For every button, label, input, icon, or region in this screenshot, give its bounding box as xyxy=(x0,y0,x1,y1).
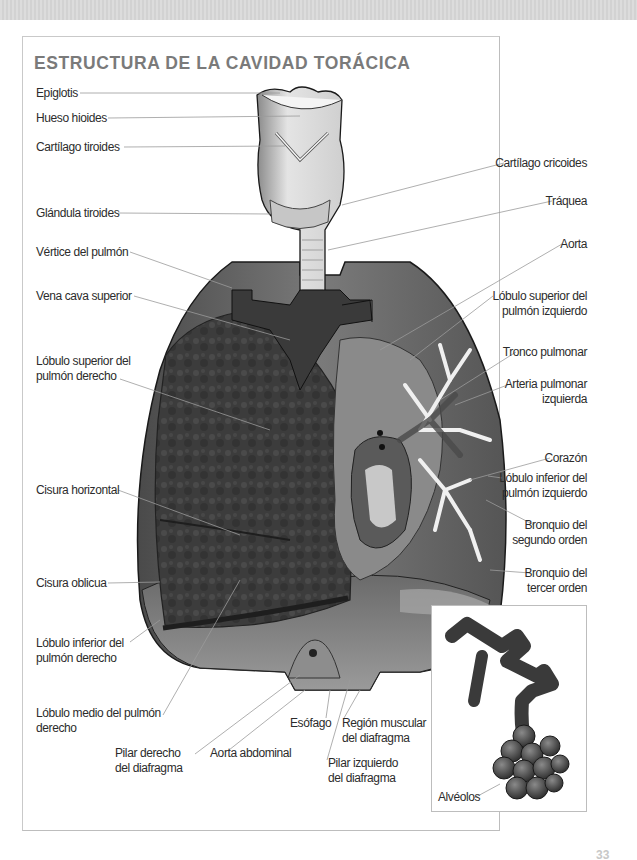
label-lobulo-superior-izquierdo: Lóbulo superior del pulmón izquierdo xyxy=(493,289,587,319)
label-line: pulmón izquierdo xyxy=(499,486,587,501)
label-line: del diafragma xyxy=(328,771,398,786)
label-line: Lóbulo inferior del xyxy=(499,471,587,486)
label-region-muscular: Región muscular del diafragma xyxy=(342,716,426,746)
label-aorta-abdominal: Aorta abdominal xyxy=(210,746,291,761)
label-pilar-izquierdo: Pilar izquierdo del diafragma xyxy=(328,756,398,786)
label-line: Lóbulo superior del xyxy=(493,289,587,304)
label-line: pulmón derecho xyxy=(36,651,124,666)
label-vena-cava-superior: Vena cava superior xyxy=(36,289,132,304)
label-arteria-pulmonar-izquierda: Arteria pulmonar izquierda xyxy=(505,377,587,407)
label-pilar-derecho: Pilar derecho del diafragma xyxy=(115,746,183,776)
label-line: tercer orden xyxy=(524,581,587,596)
alveoli-icon xyxy=(432,606,586,811)
label-line: del diafragma xyxy=(115,761,183,776)
label-epiglotis: Epiglotis xyxy=(36,86,78,101)
label-line: segundo orden xyxy=(512,533,587,548)
label-line: del diafragma xyxy=(342,731,426,746)
label-vertice-pulmon: Vértice del pulmón xyxy=(36,245,128,260)
label-corazon: Corazón xyxy=(544,451,587,466)
alveoli-inset: Alvéolos xyxy=(431,605,587,812)
label-line: Región muscular xyxy=(342,716,426,731)
label-alveolos: Alvéolos xyxy=(438,790,480,805)
page-number: 33 xyxy=(596,848,609,860)
label-line: pulmón izquierdo xyxy=(493,304,587,319)
label-cartilago-cricoides: Cartílago cricoides xyxy=(495,156,587,171)
label-esofago: Esófago xyxy=(290,716,331,731)
label-cisura-horizontal: Cisura horizontal xyxy=(36,483,119,498)
label-line: Pilar derecho xyxy=(115,746,183,761)
label-cartilago-tiroides: Cartílago tiroides xyxy=(36,140,120,155)
label-lobulo-medio-derecho: Lóbulo medio del pulmón derecho xyxy=(36,706,161,736)
label-bronquio-tercer-orden: Bronquio del tercer orden xyxy=(524,566,587,596)
label-line: Lóbulo inferior del xyxy=(36,636,124,651)
label-line: izquierda xyxy=(505,392,587,407)
label-line: Lóbulo medio del pulmón xyxy=(36,706,161,721)
label-lobulo-superior-derecho: Lóbulo superior del pulmón derecho xyxy=(36,354,130,384)
label-traquea: Tráquea xyxy=(546,194,587,209)
label-line: pulmón derecho xyxy=(36,369,130,384)
label-cisura-oblicua: Cisura oblicua xyxy=(36,576,106,591)
label-lobulo-inferior-izquierdo: Lóbulo inferior del pulmón izquierdo xyxy=(499,471,587,501)
label-bronquio-segundo-orden: Bronquio del segundo orden xyxy=(512,518,587,548)
label-line: derecho xyxy=(36,721,161,736)
label-hueso-hioides: Hueso hioides xyxy=(36,111,107,126)
label-glandula-tiroides: Glándula tiroides xyxy=(36,206,119,221)
label-tronco-pulmonar: Tronco pulmonar xyxy=(503,345,587,360)
label-line: Lóbulo superior del xyxy=(36,354,130,369)
label-line: Bronquio del xyxy=(524,566,587,581)
label-aorta: Aorta xyxy=(560,237,587,252)
label-lobulo-inferior-derecho: Lóbulo inferior del pulmón derecho xyxy=(36,636,124,666)
label-line: Pilar izquierdo xyxy=(328,756,398,771)
label-line: Bronquio del xyxy=(512,518,587,533)
label-line: Arteria pulmonar xyxy=(505,377,587,392)
